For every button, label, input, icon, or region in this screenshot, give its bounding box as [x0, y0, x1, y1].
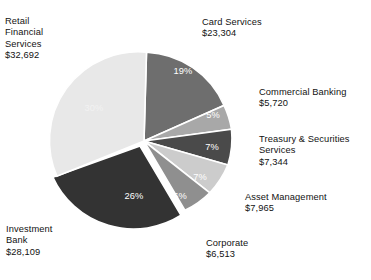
pie-slices	[49, 52, 232, 229]
callout-treasury-securities: Treasury & Securities Services $7,344	[259, 134, 350, 168]
callout-commercial-banking: Commercial Banking $5,720	[259, 87, 347, 110]
pct-label-retail-financial-services: 30%	[85, 103, 104, 113]
pct-label-card-services: 19%	[174, 66, 193, 76]
callout-asset-management: Asset Management $7,965	[245, 192, 327, 215]
callout-card-services: Card Services $23,304	[202, 17, 262, 40]
callout-investment-bank: Investment Bank $28,109	[6, 224, 52, 258]
pct-label-commercial-banking: 5%	[206, 110, 220, 120]
pct-label-asset-management: 7%	[193, 172, 207, 182]
callout-retail-financial-services: Retail Financial Services $32,692	[5, 16, 43, 62]
pct-label-corporate: 6%	[173, 191, 187, 201]
pie-chart: 19% 5% 7% 7% 6% 26% 30% Retail Financial…	[0, 0, 371, 280]
pct-label-investment-bank: 26%	[125, 191, 144, 201]
pct-label-treasury-securities: 7%	[205, 142, 219, 152]
callout-corporate: Corporate $6,513	[206, 238, 248, 261]
